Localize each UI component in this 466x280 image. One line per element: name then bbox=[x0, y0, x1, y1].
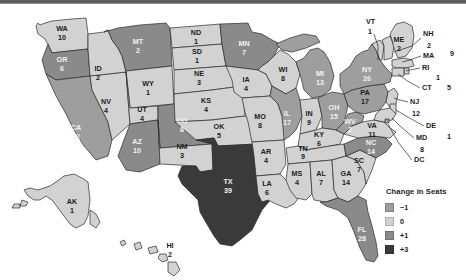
label-FL-num: 28 bbox=[358, 234, 366, 243]
label-NM-code: NM bbox=[176, 142, 187, 151]
label-KY-code: KY bbox=[314, 130, 324, 139]
label-OK-num: 5 bbox=[217, 131, 221, 140]
legend-label-plus1: +1 bbox=[400, 231, 408, 240]
label-OK-code: OK bbox=[214, 122, 226, 131]
legend-label-minus1: −1 bbox=[400, 203, 408, 212]
label-AR-code: AR bbox=[261, 147, 272, 156]
legend-row[interactable]: +3 bbox=[385, 244, 465, 255]
legend-row[interactable]: −1 bbox=[385, 202, 465, 213]
label-NE-num: 3 bbox=[197, 78, 201, 87]
label-IA-num: 4 bbox=[244, 84, 248, 93]
label-FL-code: FL bbox=[358, 225, 367, 234]
label-SC-num: 7 bbox=[357, 165, 361, 174]
map-stage: WA 10 OR 6 CA 52 NV 4 ID 2 MT 2 WY 1 UT … bbox=[0, 4, 466, 280]
label-UT-code2: UT bbox=[137, 105, 147, 114]
state-AR[interactable] bbox=[252, 140, 286, 176]
callout-CT-code: CT bbox=[422, 83, 432, 92]
label-MO-code: MO bbox=[254, 112, 266, 121]
label-ID-code: ID bbox=[94, 64, 101, 73]
state-DC[interactable] bbox=[385, 119, 389, 123]
callout-RI-num: 1 bbox=[436, 73, 440, 82]
label-ID-num: 2 bbox=[96, 73, 100, 82]
label-MT-code: MT bbox=[133, 37, 144, 46]
label-PA-code: PA bbox=[360, 88, 369, 97]
label-TX-num: 39 bbox=[224, 186, 232, 195]
label-ND-num: 1 bbox=[194, 37, 198, 46]
label-NY-num: 26 bbox=[363, 74, 371, 83]
label-VA-num: 11 bbox=[368, 130, 376, 139]
label-WI-code: WI bbox=[279, 65, 288, 74]
label-MT-num: 2 bbox=[136, 46, 140, 55]
label-SD-code: SD bbox=[192, 47, 202, 56]
callout-MD-code: MD bbox=[416, 133, 427, 142]
label-CO-code: CO bbox=[177, 116, 188, 125]
callout-MA-code: MA bbox=[423, 51, 434, 60]
callout-DE-code: DE bbox=[426, 121, 436, 130]
label-KS-code: KS bbox=[201, 96, 211, 105]
callout-NJ-num: 12 bbox=[412, 109, 420, 118]
label-MN-num: 7 bbox=[242, 48, 246, 57]
legend-label-zero: 0 bbox=[400, 217, 404, 226]
legend-row[interactable]: +1 bbox=[385, 230, 465, 241]
label-PA-num: 17 bbox=[361, 97, 369, 106]
label-WI-num: 8 bbox=[281, 74, 285, 83]
label-WA-code: WA bbox=[56, 24, 68, 33]
label-KS-num: 4 bbox=[204, 105, 208, 114]
label-MO-num: 8 bbox=[258, 121, 262, 130]
label-WY-code: WY bbox=[142, 79, 154, 88]
label-IL-num: 17 bbox=[283, 118, 291, 127]
callout-NH-num: 2 bbox=[427, 41, 431, 50]
callout-RI-code: RI bbox=[422, 63, 429, 72]
label-GA-code: GA bbox=[341, 169, 352, 178]
legend: Change in Seats −1 0 +1 +3 bbox=[385, 187, 465, 258]
label-MS-code: MS bbox=[292, 169, 303, 178]
label-OH-code: OH bbox=[329, 103, 340, 112]
label-NC-num: 14 bbox=[367, 147, 375, 156]
label-AZ-num: 10 bbox=[133, 146, 141, 155]
state-FL[interactable] bbox=[320, 196, 378, 262]
state-AK[interactable] bbox=[12, 174, 100, 228]
label-VA-code: VA bbox=[367, 121, 376, 130]
callout-DE-num: 1 bbox=[447, 132, 451, 141]
label-HI-code: HI bbox=[166, 241, 173, 250]
label-WY-num: 1 bbox=[146, 88, 150, 97]
label-CO-num: 8 bbox=[180, 125, 184, 134]
label-CA-code: CA bbox=[71, 123, 81, 132]
label-HI-num: 2 bbox=[168, 250, 172, 259]
label-IA-code: IA bbox=[242, 75, 249, 84]
label-MI-code: MI bbox=[316, 69, 324, 78]
state-CT[interactable] bbox=[392, 68, 404, 76]
label-AZ-code: AZ bbox=[132, 137, 142, 146]
label-AL-num: 7 bbox=[319, 178, 323, 187]
label-SD-num: 1 bbox=[195, 56, 199, 65]
label-GA-num: 14 bbox=[342, 178, 350, 187]
label-UT-num: 4 bbox=[140, 114, 144, 123]
label-AK-num: 1 bbox=[70, 206, 74, 215]
label-NV-num: 4 bbox=[104, 106, 108, 115]
label-NC-code: NC bbox=[366, 138, 376, 147]
label-ME-code: ME bbox=[394, 35, 405, 44]
label-OR-code: OR bbox=[57, 55, 69, 64]
legend-label-plus3: +3 bbox=[400, 245, 408, 254]
label-TN-num: 9 bbox=[301, 152, 305, 161]
label-NE-code: NE bbox=[194, 69, 204, 78]
label-LA-code: LA bbox=[262, 179, 272, 188]
label-LA-num: 6 bbox=[265, 188, 269, 197]
label-NM-num: 3 bbox=[180, 151, 184, 160]
leader-line-MD bbox=[392, 118, 414, 138]
label-CA-num: 52 bbox=[72, 132, 80, 141]
label-SC-code: SC bbox=[354, 156, 364, 165]
legend-swatch-minus1 bbox=[385, 203, 394, 212]
callout-MD-num: 8 bbox=[420, 145, 424, 154]
label-MI-num: 13 bbox=[316, 78, 324, 87]
label-WV-num: 2 bbox=[348, 125, 352, 134]
label-MN-code: MN bbox=[238, 39, 249, 48]
label-NY-code: NY bbox=[362, 65, 372, 74]
legend-row[interactable]: 0 bbox=[385, 216, 465, 227]
legend-swatch-zero bbox=[385, 217, 394, 226]
legend-swatch-plus1 bbox=[385, 231, 394, 240]
label-AK-code: AK bbox=[67, 197, 78, 206]
legend-swatch-plus3 bbox=[385, 245, 394, 254]
label-ME-num: 2 bbox=[397, 44, 401, 53]
label-KY-num: 6 bbox=[317, 139, 321, 148]
